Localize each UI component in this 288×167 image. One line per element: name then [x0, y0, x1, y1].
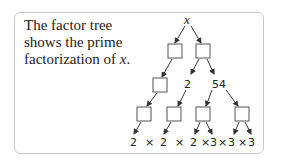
svg-text:×: ×: [238, 136, 247, 149]
svg-text:2: 2: [160, 136, 167, 149]
svg-text:3: 3: [210, 136, 217, 149]
tree-box-l1-left: [168, 44, 182, 58]
svg-text:×: ×: [201, 136, 210, 149]
factor-tree: x 2 54 2 × 2 × 2 × 3 × 3 × 3: [0, 0, 288, 167]
tree-root-label: x: [183, 12, 190, 27]
tree-box-l1-right: [196, 44, 210, 58]
svg-text:×: ×: [218, 136, 227, 149]
bottom-row: 2 × 2 × 2 × 3 × 3 × 3: [130, 136, 255, 149]
tree-box-l3-3: [196, 107, 210, 121]
svg-text:×: ×: [145, 136, 154, 149]
tree-box-l3-1: [137, 107, 151, 121]
svg-text:×: ×: [175, 136, 184, 149]
svg-text:3: 3: [248, 136, 255, 149]
tree-box-l2-left: [153, 78, 167, 92]
tree-box-l3-2: [167, 107, 181, 121]
tree-label-2: 2: [184, 78, 191, 91]
svg-text:2: 2: [130, 136, 137, 149]
svg-text:3: 3: [228, 136, 235, 149]
tree-label-54: 54: [212, 78, 226, 91]
svg-text:2: 2: [190, 136, 197, 149]
tree-box-l3-4: [235, 107, 249, 121]
